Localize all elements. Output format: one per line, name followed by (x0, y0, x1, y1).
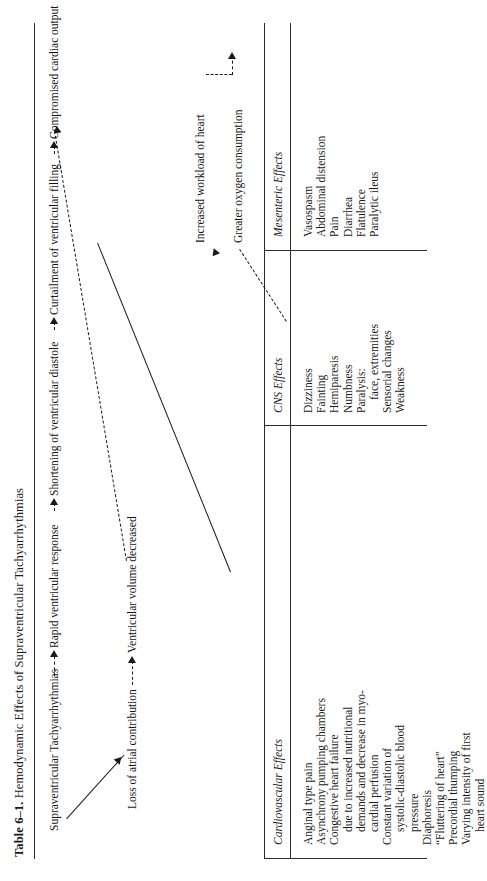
node-greater-oxygen-consumption: Greater oxygen consumption (232, 110, 244, 244)
list-item: Flatulence (355, 136, 368, 237)
column-header-cardiovascular: Cardiovascular Effects (272, 739, 284, 845)
column-list-mesenteric: VasospasmAbdominal distensionPainDiarrhe… (302, 136, 381, 237)
list-item: Weakness (394, 324, 407, 413)
list-item: Fainting (315, 324, 328, 413)
line-volume-to-compromised (54, 131, 127, 561)
table-title: Table 6–1. Hemodynamic Effects of Suprav… (12, 488, 27, 857)
list-item: Numbness (342, 324, 355, 413)
list-item: Constant variation of (381, 690, 394, 845)
list-item: Precordial thumping (447, 690, 460, 845)
node-increased-workload-of-heart: Increased workload of heart (194, 114, 206, 243)
flow-diagram: Supraventricular Tachyarrhythmias Rapid … (34, 0, 264, 881)
list-item: Pain (328, 136, 341, 237)
column-list-cns: DizzinessFaintingHemiparesisNumbnessPara… (302, 324, 408, 413)
list-item: cardial perfusion (368, 690, 381, 845)
arrowhead-volume-to-compromised (52, 125, 61, 133)
arrowhead-root-to-rapid (50, 650, 58, 657)
node-ventricular-volume-decreased: Ventricular volume decreased (126, 516, 138, 653)
node-rapid-ventricular-response: Rapid ventricular response (48, 525, 60, 648)
list-item: “Fluttering of heart” (434, 690, 447, 845)
list-item: Vasospasm (302, 136, 315, 237)
arrowhead-to-workload (210, 247, 220, 256)
list-item: Diaphoresis (421, 690, 434, 845)
list-item: Abdominal distension (315, 136, 328, 237)
list-item: systolic-diastolic blood (394, 690, 407, 845)
arrowhead-rapid-to-shortening (50, 498, 58, 505)
node-compromised-cardiac-output: Compromised cardiac output (48, 6, 60, 140)
list-item: heart sound (474, 690, 487, 845)
list-item: Congestive heart failure (328, 690, 341, 845)
node-curtailment-ventricular-filling: Curtailment of ventricular filling (48, 164, 60, 315)
column-divider-mesenteric (264, 250, 427, 251)
list-item: face, extremities (368, 324, 381, 413)
column-divider-cns (264, 425, 427, 426)
connector-workload-down (206, 74, 232, 75)
node-shortening-ventricular-diastole: Shortening of ventricular diastole (48, 342, 60, 496)
connector-atrial-to-volume (132, 661, 133, 685)
table-number: Table 6–1. (12, 802, 26, 857)
table-title-text: Hemodynamic Effects of Supraventricular … (12, 488, 26, 798)
column-header-mesenteric: Mesenteric Effects (272, 152, 284, 237)
list-item: Hemiparesis (328, 324, 341, 413)
arrowhead-workload-to-oxygen (228, 52, 236, 59)
line-rapid-to-workload (97, 243, 231, 573)
list-item: Varying intensity of first (460, 690, 473, 845)
list-item: Paralytic ileus (368, 136, 381, 237)
column-list-cardiovascular: Anginal type painAsynchrony pumping cham… (302, 690, 487, 845)
list-item: Dizziness (302, 324, 315, 413)
node-supraventricular-tachyarrhythmias: Supraventricular Tachyarrhythmias (48, 669, 60, 831)
connector-root-to-rapid (54, 656, 55, 676)
list-item: Asynchrony pumping chambers (315, 690, 328, 845)
list-item: due to increased nutritional (342, 690, 355, 845)
arrowhead-atrial-to-volume (128, 656, 136, 663)
column-divider-left (264, 858, 427, 859)
arrowhead-shortening-to-curtailment (50, 317, 58, 324)
list-item: Paralysis: (355, 324, 368, 413)
line-root-to-atrial-loss (66, 755, 124, 820)
list-item: Sensorial changes (381, 324, 394, 413)
list-item: demands and decrease in myo- (355, 690, 368, 845)
list-item: Anginal type pain (302, 690, 315, 845)
column-header-cns: CNS Effects (272, 358, 284, 413)
effects-columns: Cardiovascular Effects Anginal type pain… (264, 0, 427, 881)
list-item: Diarrhea (342, 136, 355, 237)
node-loss-of-atrial-contribution: Loss of atrial contribution (126, 689, 138, 809)
list-item: pressure (408, 690, 421, 845)
